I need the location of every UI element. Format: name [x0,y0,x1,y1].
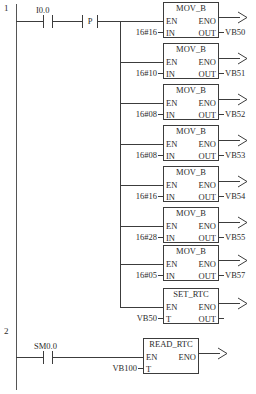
block-6-out-operand: VB55 [225,232,245,242]
block-title: MOV_B [164,208,218,219]
block-8-out-stub [218,318,224,319]
block-8-in-stub [158,318,164,319]
block-mov-b-7[interactable]: MOV_B EN ENO IN OUT [163,245,219,281]
block-4-out-operand: VB53 [225,150,245,160]
read-rtc-output-arrow [218,347,229,360]
block-1-in-operand: 16#16 [120,27,157,37]
branch-line-block-6 [120,226,164,227]
block-out-label: OUT [199,110,216,120]
block-eno-label: ENO [199,139,216,149]
rung-1-link-b [98,21,120,22]
block-out-label: OUT [199,233,216,243]
branch-line-block-4 [120,144,164,145]
block-read-rtc[interactable]: READ_RTC EN ENO T [143,338,199,374]
block-eno-label: ENO [199,98,216,108]
block-7-out-operand: VB57 [225,270,245,280]
pbox-bar-left [82,15,83,28]
rung-2-link [53,357,144,358]
block-en-label: EN [166,259,177,269]
block-mov-b-5[interactable]: MOV_B EN ENO IN OUT [163,166,219,202]
block-1-output-arrow [238,11,249,24]
block-title: MOV_B [164,85,218,96]
rung-1-power-line [16,21,43,22]
block-in-label: IN [166,192,175,202]
contact-label-i00: I0.0 [36,6,49,15]
block-2-eno-line [218,58,240,59]
block-out-label: OUT [199,192,216,202]
block-6-in-stub [158,237,164,238]
positive-edge-p[interactable]: P [82,15,98,28]
block-2-out-operand: VB51 [225,68,245,78]
block-en-label: EN [166,98,177,108]
block-eno-label: ENO [199,16,216,26]
block-7-in-operand: 16#05 [120,270,157,280]
block-6-out-stub [218,237,224,238]
block-7-in-stub [158,275,164,276]
block-mov-b-2[interactable]: MOV_B EN ENO IN OUT [163,43,219,79]
block-1-out-stub [218,32,224,33]
block-3-out-stub [218,114,224,115]
rung-1-link-a [53,21,82,22]
block-3-out-operand: VB52 [225,109,245,119]
block-en-label: EN [166,221,177,231]
block-en-label: EN [166,16,177,26]
branch-line-block-1 [120,21,164,22]
block-3-eno-line [218,99,240,100]
branch-line-block-7 [120,264,164,265]
block-3-in-stub [158,114,164,115]
rung-2-power-line [16,357,43,358]
block-in-label: IN [166,69,175,79]
block-en-label: EN [166,57,177,67]
rung-number-2: 2 [4,327,9,336]
block-4-in-stub [158,155,164,156]
contact-sm00[interactable] [43,351,53,364]
block-2-out-stub [218,73,224,74]
block-1-out-operand: VB50 [225,27,245,37]
read-rtc-eno-line [198,353,220,354]
block-in-label: IN [166,28,175,38]
contact-bar-left [43,351,44,364]
block-title: MOV_B [164,246,218,257]
block-eno-label: ENO [199,221,216,231]
block-2-in-operand: 16#10 [120,68,157,78]
block-4-out-stub [218,155,224,156]
block-t-label: T [166,314,171,324]
block-8-eno-line [218,303,240,304]
branch-line-block-5 [120,185,164,186]
rung-number-1: 1 [4,4,9,13]
block-mov-b-3[interactable]: MOV_B EN ENO IN OUT [163,84,219,120]
block-2-in-stub [158,73,164,74]
block-8-output-arrow [238,297,249,310]
contact-bar-left [43,15,44,28]
contact-i00[interactable] [43,15,53,28]
block-title: MOV_B [164,44,218,55]
block-out-label: OUT [199,69,216,79]
read-rtc-in-operand: VB100 [98,363,137,373]
block-4-output-arrow [238,134,249,147]
block-in-label: IN [166,271,175,281]
block-5-in-operand: 16#16 [120,191,157,201]
block-1-in-stub [158,32,164,33]
left-power-rail [16,4,17,390]
block-set-rtc[interactable]: SET_RTC EN ENO T OUT [163,288,219,324]
block-en-label: EN [166,302,177,312]
ladder-diagram-canvas: 1 I0.0 P MOV_B EN ENO IN OUT 16#16 VB50 … [0,0,256,394]
block-eno-label: ENO [199,302,216,312]
block-title: SET_RTC [164,289,218,300]
block-mov-b-4[interactable]: MOV_B EN ENO IN OUT [163,125,219,161]
block-6-in-operand: 16#28 [120,232,157,242]
block-en-label: EN [166,139,177,149]
block-3-in-operand: 16#08 [120,109,157,119]
block-7-output-arrow [238,254,249,267]
branch-line-block-3 [120,103,164,104]
block-eno-label: ENO [199,259,216,269]
read-rtc-in-stub [138,368,144,369]
block-6-eno-line [218,222,240,223]
block-out-label: OUT [199,28,216,38]
block-t-label: T [146,364,151,374]
block-mov-b-6[interactable]: MOV_B EN ENO IN OUT [163,207,219,243]
block-title: MOV_B [164,126,218,137]
block-mov-b-1[interactable]: MOV_B EN ENO IN OUT [163,2,219,38]
block-out-label: OUT [199,314,216,324]
block-title: MOV_B [164,167,218,178]
